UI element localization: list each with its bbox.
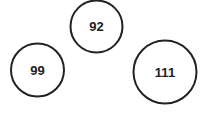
node-label: 99 [30,63,44,78]
node-92: 92 [71,1,123,53]
node-99: 99 [11,44,64,97]
node-label: 111 [155,65,175,80]
node-label: 92 [89,19,103,34]
node-111: 111 [134,41,197,104]
diagram-canvas: 92 99 111 [0,0,202,114]
